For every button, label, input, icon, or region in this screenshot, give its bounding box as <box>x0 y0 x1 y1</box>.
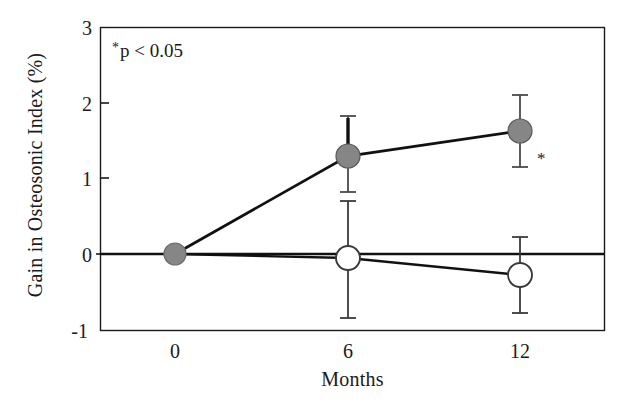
y-axis-ticks <box>96 103 109 254</box>
filled-marker-12mo <box>508 119 532 143</box>
chart-figure: Gain in Osteosonic Index (%) Months 3 2 … <box>0 0 636 404</box>
plot-border <box>101 28 605 331</box>
filled-marker-0mo <box>164 243 186 265</box>
open-marker-12mo <box>508 263 532 287</box>
open-circle-series <box>175 201 532 318</box>
filled-marker-6mo <box>336 144 360 168</box>
plot-area <box>0 0 636 404</box>
open-marker-6mo <box>336 246 360 270</box>
axes-frame <box>101 28 605 331</box>
